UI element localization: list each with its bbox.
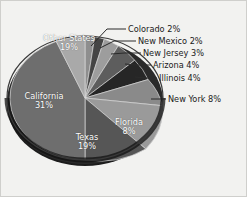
pie-graphic: [1, 1, 247, 197]
pie-chart-figure: Other States 19% California 31% Texas 19…: [0, 0, 247, 197]
plot-area: Other States 19% California 31% Texas 19…: [1, 1, 246, 196]
